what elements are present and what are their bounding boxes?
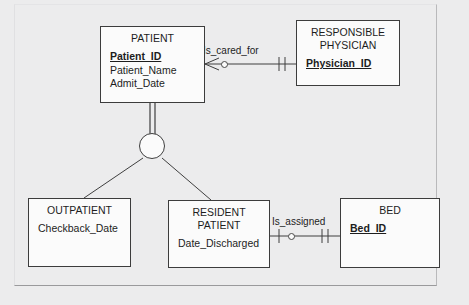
- attribute-bed-id: Bed_ID: [350, 222, 439, 236]
- entity-resident-patient-title: RESIDENT PATIENT: [169, 201, 269, 232]
- entity-patient[interactable]: PATIENT Patient_ID Patient_Name Admit_Da…: [100, 26, 205, 103]
- entity-responsible-physician-title: RESPONSIBLE PHYSICIAN: [297, 21, 399, 52]
- entity-responsible-physician[interactable]: RESPONSIBLE PHYSICIAN Physician_ID: [296, 20, 400, 86]
- attribute-patient-id: Patient_ID: [110, 50, 204, 64]
- entity-outpatient-title: OUTPATIENT: [29, 199, 130, 217]
- entity-bed-title: BED: [341, 199, 439, 217]
- entity-resident-patient[interactable]: RESIDENT PATIENT Date_Discharged: [168, 200, 270, 268]
- entity-outpatient-attributes: Checkback_Date: [29, 217, 130, 236]
- entity-outpatient[interactable]: OUTPATIENT Checkback_Date: [28, 198, 131, 267]
- entity-patient-title: PATIENT: [101, 27, 204, 45]
- entity-resident-patient-attributes: Date_Discharged: [169, 232, 269, 251]
- optional-circle-is-cared-for: [221, 61, 228, 68]
- attribute-patient-name: Patient_Name: [110, 64, 204, 78]
- optional-circle-is-assigned: [288, 233, 295, 240]
- entity-bed-attributes: Bed_ID: [341, 217, 439, 236]
- entity-responsible-physician-attributes: Physician_ID: [297, 52, 399, 71]
- relationship-label-is-cared-for: Is_cared_for: [203, 45, 259, 56]
- relationship-label-is-assigned: Is_assigned: [272, 216, 325, 227]
- entity-patient-attributes: Patient_ID Patient_Name Admit_Date: [101, 45, 204, 91]
- er-diagram-canvas: Is_cared_for Is_assigned PATIENT Patient…: [0, 0, 469, 305]
- attribute-checkback-date: Checkback_Date: [38, 222, 130, 236]
- attribute-physician-id: Physician_ID: [306, 57, 399, 71]
- attribute-admit-date: Admit_Date: [110, 77, 204, 91]
- attribute-date-discharged: Date_Discharged: [178, 237, 269, 251]
- entity-bed[interactable]: BED Bed_ID: [340, 198, 440, 268]
- subtype-connector-circle: [139, 133, 165, 159]
